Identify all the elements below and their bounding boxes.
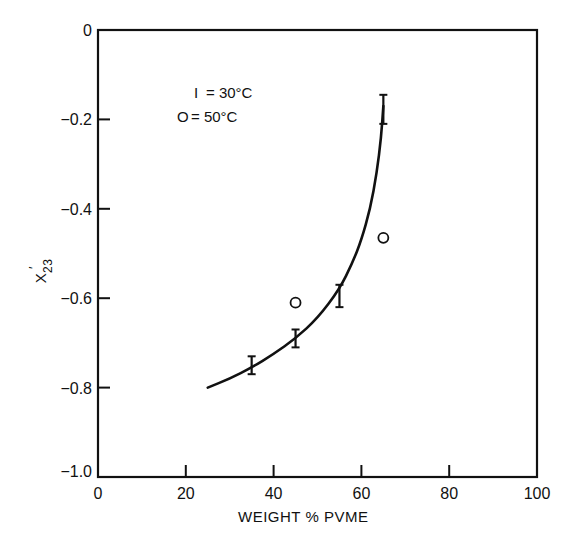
y-tick-label: −0.4	[60, 201, 92, 218]
x-axis-label: WEIGHT % PVME	[238, 508, 368, 525]
axes	[98, 30, 537, 477]
legend: I = 30°C O = 50°C	[177, 84, 253, 125]
plot-frame	[98, 30, 537, 477]
y-axis-label-main: X	[32, 273, 49, 284]
legend-symbol-errorbar: I	[194, 84, 198, 101]
y-tick-label: −0.6	[60, 290, 92, 307]
x-tick-label: 100	[524, 485, 551, 502]
circle-point-50c	[378, 233, 388, 243]
data-points	[248, 95, 389, 374]
y-axis-label: X ′ 23	[26, 259, 55, 284]
x-tick-label: 60	[353, 485, 371, 502]
y-axis-label-prime: ′	[26, 266, 41, 269]
x-tick-label: 0	[94, 485, 103, 502]
y-tick-label: −0.2	[60, 111, 92, 128]
errorbar-point-30c	[292, 329, 300, 347]
y-tick-label: −1.0	[60, 463, 92, 480]
chart: 0204060801000−0.2−0.4−0.6−0.8−1.0 I = 30…	[0, 0, 574, 535]
y-tick-label: −0.8	[60, 380, 92, 397]
legend-symbol-circle: O	[177, 108, 189, 125]
circle-point-50c	[291, 298, 301, 308]
y-axis-label-subscript: 23	[41, 259, 55, 273]
x-tick-label: 40	[265, 485, 283, 502]
legend-label-30c: = 30°C	[206, 84, 253, 101]
x-tick-label: 80	[440, 485, 458, 502]
errorbar-point-30c	[335, 285, 343, 307]
x-tick-label: 20	[177, 485, 195, 502]
legend-label-50c: = 50°C	[191, 108, 238, 125]
plot-svg: 0204060801000−0.2−0.4−0.6−0.8−1.0 I = 30…	[0, 0, 574, 535]
ticks: 0204060801000−0.2−0.4−0.6−0.8−1.0	[60, 22, 550, 502]
y-tick-label: 0	[83, 22, 92, 39]
errorbar-point-30c	[379, 95, 387, 124]
